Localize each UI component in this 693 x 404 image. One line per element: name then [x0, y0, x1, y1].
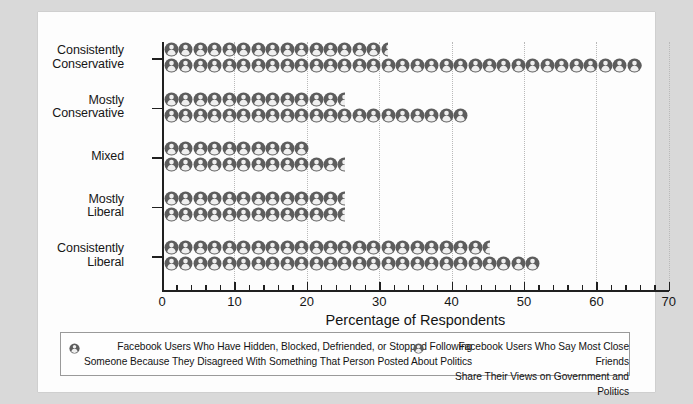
- person-icon: [265, 157, 279, 172]
- person-icon: [294, 157, 308, 172]
- pictograph-group-3: [164, 141, 345, 173]
- y-axis-labels: ConsistentlyConservativeMostlyConservati…: [38, 20, 124, 268]
- person-icon: [366, 240, 380, 255]
- person-icon: [309, 92, 323, 107]
- person-icon: [251, 207, 265, 222]
- pictograph-row: [164, 191, 345, 207]
- pictograph-row: [164, 207, 345, 223]
- person-icon: [280, 108, 294, 123]
- person-icon: [164, 256, 178, 271]
- person-icon: [280, 58, 294, 73]
- person-icon: [280, 240, 294, 255]
- x-tick-label-60: 60: [589, 294, 603, 309]
- legend-entry-close-friends: Facebook Users Who Say Most Close Friend…: [413, 339, 629, 399]
- person-icon: [207, 92, 221, 107]
- person-icon: [265, 256, 279, 271]
- person-icon: [178, 58, 192, 73]
- person-icon: [236, 108, 250, 123]
- person-icon: [641, 58, 642, 73]
- person-icon: [178, 141, 192, 156]
- person-icon: [424, 240, 438, 255]
- person-icon: [280, 191, 294, 206]
- legend-entry-hidden-blocked: Facebook Users Who Have Hidden, Blocked,…: [69, 339, 472, 369]
- x-tick-label-10: 10: [227, 294, 241, 309]
- person-icon: [178, 191, 192, 206]
- person-icon: [178, 157, 192, 172]
- person-icon: [164, 240, 178, 255]
- person-icon: [424, 256, 438, 271]
- x-tick-16: [278, 285, 279, 291]
- person-icon: [439, 58, 453, 73]
- x-tick-label-20: 20: [300, 294, 314, 309]
- person-icon: [366, 256, 380, 271]
- person-icon: [236, 240, 250, 255]
- person-icon: [222, 256, 236, 271]
- y-label-line-1: Consistently: [38, 242, 124, 256]
- person-icon: [453, 58, 467, 73]
- x-tick-label-70: 70: [662, 294, 676, 309]
- y-axis-label-5: ConsistentlyLiberal: [38, 242, 124, 269]
- person-icon: [193, 42, 207, 57]
- person-icon: [294, 191, 308, 206]
- x-tick-22: [321, 285, 322, 291]
- x-tick-68: [654, 285, 655, 291]
- person-icon: [236, 42, 250, 57]
- person-icon: [265, 240, 279, 255]
- x-tick-24: [336, 285, 337, 291]
- pictograph-row: [164, 157, 345, 173]
- pictograph-row: [164, 58, 642, 74]
- person-icon: [164, 108, 178, 123]
- pictograph-group-5: [164, 240, 540, 272]
- person-icon: [337, 240, 351, 255]
- pictograph-row: [164, 42, 388, 58]
- person-icon: [193, 157, 207, 172]
- person-icon: [193, 207, 207, 222]
- person-icon: [193, 141, 207, 156]
- x-tick-26: [350, 285, 351, 291]
- y-tick-4: [152, 207, 162, 209]
- x-tick-52: [538, 285, 539, 291]
- legend-line-2: Share Their Views on Government and Poli…: [428, 369, 629, 399]
- person-icon: [265, 207, 279, 222]
- person-icon: [178, 207, 192, 222]
- person-icon: [395, 58, 409, 73]
- person-icon: [178, 92, 192, 107]
- y-tick-2: [152, 108, 162, 110]
- person-icon: [309, 240, 323, 255]
- person-icon: [164, 58, 178, 73]
- y-tick-5: [152, 256, 162, 258]
- person-icon: [323, 92, 337, 107]
- person-icon: [164, 42, 178, 57]
- y-axis-label-4: MostlyLiberal: [38, 193, 124, 220]
- person-icon: [453, 240, 467, 255]
- y-label-line-2: Conservative: [38, 107, 124, 121]
- person-icon: [309, 108, 323, 123]
- y-label-line-2: Liberal: [38, 206, 124, 220]
- pictograph-group-2: [164, 92, 468, 124]
- person-icon: [251, 58, 265, 73]
- person-icon: [193, 256, 207, 271]
- person-icon: [410, 240, 424, 255]
- x-tick-54: [553, 285, 554, 291]
- person-icon: [323, 58, 337, 73]
- person-icon: [236, 191, 250, 206]
- person-icon: [381, 240, 395, 255]
- person-icon: [366, 108, 380, 123]
- x-tick-64: [625, 285, 626, 291]
- person-icon: [265, 92, 279, 107]
- person-icon: [178, 240, 192, 255]
- person-icon: [251, 256, 265, 271]
- person-icon: [164, 92, 178, 107]
- person-icon: [294, 58, 308, 73]
- person-icon: [511, 256, 525, 271]
- x-tick-12: [249, 285, 250, 291]
- person-icon: [164, 207, 178, 222]
- person-icon: [453, 108, 467, 123]
- person-icon: [294, 207, 308, 222]
- person-icon: [424, 108, 438, 123]
- person-icon: [236, 92, 250, 107]
- person-icon: [207, 207, 221, 222]
- person-icon: [424, 58, 438, 73]
- person-icon: [525, 256, 539, 271]
- person-icon: [323, 207, 337, 222]
